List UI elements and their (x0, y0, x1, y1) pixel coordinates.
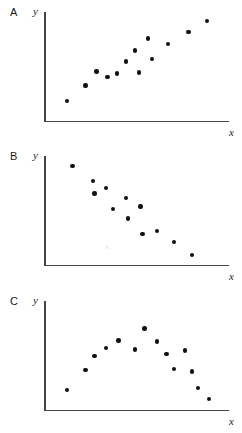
panel-label-c: C (10, 295, 18, 307)
data-point (116, 338, 120, 342)
data-point (196, 386, 200, 390)
data-point (190, 369, 194, 373)
data-point (186, 30, 190, 34)
smudge-artifact (105, 245, 109, 249)
scatterplot-figure: A y x B y x C y x (0, 0, 242, 433)
data-point (207, 397, 211, 401)
data-point (124, 59, 128, 63)
data-point (91, 179, 95, 183)
panel-c: C y x (0, 289, 242, 432)
data-point (155, 229, 159, 233)
panel-b: B y x (0, 144, 242, 287)
data-point (172, 240, 176, 244)
data-point (70, 164, 74, 168)
data-point (83, 83, 87, 87)
data-point (142, 326, 146, 330)
data-point (166, 42, 170, 46)
data-point (150, 57, 154, 61)
data-point (83, 368, 87, 372)
y-axis-label-c: y (33, 294, 38, 306)
data-point (111, 207, 115, 211)
data-point (92, 191, 96, 195)
data-point (65, 388, 69, 392)
data-point (126, 216, 130, 220)
data-point (164, 352, 168, 356)
data-point (205, 19, 209, 23)
data-point (140, 232, 144, 236)
panel-label-b: B (10, 150, 18, 162)
x-axis-label-a: x (229, 126, 234, 138)
data-point (155, 339, 159, 343)
data-point (94, 69, 98, 73)
panel-label-a: A (10, 6, 18, 18)
plot-area-b (45, 157, 229, 267)
data-point (138, 204, 142, 208)
data-point (104, 346, 108, 350)
data-point (137, 70, 141, 74)
data-point (115, 71, 119, 75)
x-axis-label-c: x (229, 415, 234, 427)
data-point (124, 196, 128, 200)
data-point (172, 367, 176, 371)
data-point (105, 75, 109, 79)
x-axis-label-b: x (229, 270, 234, 282)
data-point (104, 186, 108, 190)
data-point (133, 347, 137, 351)
data-point (133, 48, 137, 52)
data-point (65, 99, 69, 103)
data-point (183, 348, 187, 352)
y-axis-label-b: y (33, 149, 38, 161)
plot-area-c (45, 302, 229, 412)
panel-a: A y x (0, 0, 242, 143)
y-axis-label-a: y (33, 5, 38, 17)
data-point (92, 354, 96, 358)
plot-area-a (45, 13, 229, 123)
data-point (146, 36, 150, 40)
data-point (190, 253, 194, 257)
